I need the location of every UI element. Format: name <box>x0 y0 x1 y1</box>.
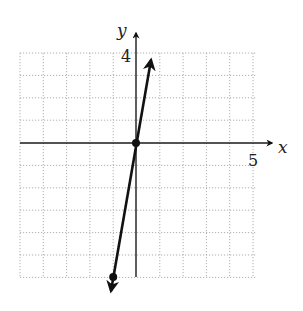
y-tick-label: 4 <box>121 47 131 66</box>
x-tick-label: 5 <box>248 151 258 170</box>
point-neg1-neg6 <box>109 273 117 281</box>
line-y-equals-6x <box>111 60 151 291</box>
y-axis-label: y <box>116 20 127 40</box>
x-axis-label: x <box>278 137 288 157</box>
grid-lines <box>20 53 256 277</box>
point-origin <box>132 139 140 147</box>
coordinate-plane: x y 5 4 <box>0 0 303 311</box>
